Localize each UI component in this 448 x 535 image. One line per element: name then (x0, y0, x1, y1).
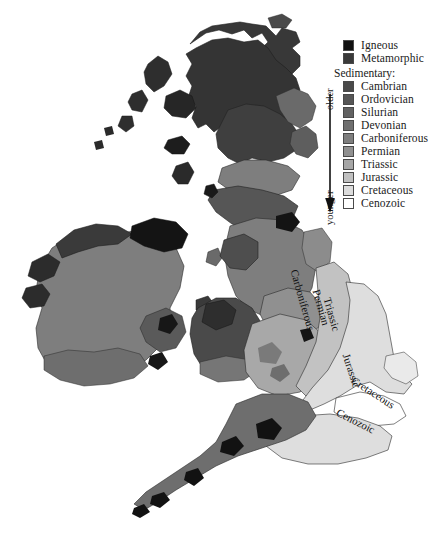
legend-label-permian: Permian (361, 146, 400, 157)
legend-row-cenozoic[interactable]: Cenozoic (343, 198, 405, 209)
legend-row-devonian[interactable]: Devonian (343, 120, 407, 131)
island-mull (164, 136, 190, 154)
down-arrow-icon (312, 80, 342, 225)
legend-row-ordovician[interactable]: Ordovician (343, 94, 414, 105)
legend-label-cretaceous: Cretaceous (361, 185, 413, 196)
legend-row-triassic[interactable]: Triassic (343, 159, 398, 170)
legend-heading-sedimentary: Sedimentary: (334, 67, 395, 79)
legend-swatch-triassic (343, 159, 354, 170)
island-small-2 (94, 140, 104, 150)
legend-swatch-cretaceous (343, 185, 354, 196)
legend-row-cretaceous[interactable]: Cretaceous (343, 185, 413, 196)
island-isle-of-man (206, 248, 222, 266)
legend-swatch-cambrian (343, 81, 354, 92)
island-orkney (268, 14, 292, 28)
legend-swatch-carboniferous (343, 133, 354, 144)
legend-swatch-jurassic (343, 172, 354, 183)
age-direction-indicator: older younger (312, 80, 342, 225)
legend-label-metamorphic: Metamorphic (361, 53, 424, 64)
island-outer-hebrides (144, 56, 172, 92)
legend-swatch-silurian (343, 107, 354, 118)
legend-label-silurian: Silurian (361, 107, 398, 118)
legend-label-carboniferous: Carboniferous (361, 133, 428, 144)
legend-row-jurassic[interactable]: Jurassic (343, 172, 398, 183)
island-hebrides-b (128, 90, 148, 112)
legend-label-cambrian: Cambrian (361, 81, 407, 92)
legend-label-igneous: Igneous (361, 40, 398, 51)
legend-row-igneous[interactable]: Igneous (343, 40, 398, 51)
legend-swatch-metamorphic (343, 53, 354, 64)
geological-map-figure: Carboniferous Permian Triassic Jurassic … (0, 0, 448, 535)
legend-label-devonian: Devonian (361, 120, 407, 131)
legend-label-triassic: Triassic (361, 159, 398, 170)
legend-row-silurian[interactable]: Silurian (343, 107, 398, 118)
legend-row-cambrian[interactable]: Cambrian (343, 81, 407, 92)
legend-swatch-cenozoic (343, 198, 354, 209)
legend-label-cenozoic: Cenozoic (361, 198, 405, 209)
map-legend: older younger Igneous Metamorphic Sedime… (312, 40, 448, 220)
legend-label-jurassic: Jurassic (361, 172, 398, 183)
legend-swatch-ordovician (343, 94, 354, 105)
legend-row-permian[interactable]: Permian (343, 146, 400, 157)
legend-label-ordovician: Ordovician (361, 94, 414, 105)
island-small-1 (104, 126, 114, 136)
region-ireland-south-devonian (44, 348, 148, 386)
island-islay-jura (172, 162, 194, 184)
legend-swatch-devonian (343, 120, 354, 131)
legend-row-carboniferous[interactable]: Carboniferous (343, 133, 428, 144)
legend-row-metamorphic[interactable]: Metamorphic (343, 53, 424, 64)
island-hebrides-c (118, 116, 134, 132)
legend-swatch-igneous (343, 40, 354, 51)
legend-swatch-permian (343, 146, 354, 157)
